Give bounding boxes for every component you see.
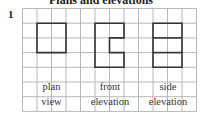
front-elevation-label-line2: elevation (85, 97, 135, 108)
front-elevation-label-line1: front (85, 82, 135, 93)
side-elevation-label-line2: elevation (143, 97, 193, 108)
side-elevation-label-line1: side (143, 82, 193, 93)
plan-view-label-line2: view (37, 97, 66, 108)
plan-view-label-line1: plan (37, 82, 66, 93)
